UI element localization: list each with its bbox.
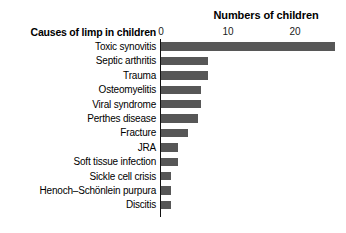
bar-row: Fracture: [0, 126, 346, 140]
bar-category-label: Sickle cell crisis: [0, 170, 156, 184]
bar-row: Sickle cell crisis: [0, 170, 346, 184]
bar-category-label: Trauma: [0, 69, 156, 83]
bar-row: Osteomyelitis: [0, 83, 346, 97]
bar-category-label: Perthes disease: [0, 112, 156, 126]
bar-row: Henoch–Schönlein purpura: [0, 184, 346, 198]
bar: [161, 100, 201, 108]
bar: [161, 201, 171, 209]
bar-category-label: Soft tissue infection: [0, 155, 156, 169]
bar-category-label: Osteomyelitis: [0, 83, 156, 97]
bar-row: Trauma: [0, 69, 346, 83]
bar-row: Septic arthritis: [0, 54, 346, 68]
value-axis-tick-20: 20: [283, 25, 307, 38]
bar-row: Discitis: [0, 198, 346, 212]
bar-category-label: Fracture: [0, 126, 156, 140]
bar: [161, 86, 201, 94]
bar-category-label: Henoch–Schönlein purpura: [0, 184, 156, 198]
bar: [161, 143, 178, 151]
bar-row: Viral syndrome: [0, 98, 346, 112]
bar-category-label: Discitis: [0, 198, 156, 212]
bar: [161, 172, 171, 180]
bar-category-label: Viral syndrome: [0, 98, 156, 112]
bar: [161, 71, 208, 79]
bar-row: JRA: [0, 141, 346, 155]
bar-row: Toxic synovitis: [0, 40, 346, 54]
bar-category-label: JRA: [0, 141, 156, 155]
bar-row: Perthes disease: [0, 112, 346, 126]
value-axis-tick-0: 0: [149, 25, 173, 38]
bar: [161, 186, 171, 194]
bar-category-label: Toxic synovitis: [0, 40, 156, 54]
bar-row: Soft tissue infection: [0, 155, 346, 169]
bar: [161, 57, 208, 65]
plot-area: Toxic synovitisSeptic arthritisTraumaOst…: [0, 39, 346, 225]
bar-category-label: Septic arthritis: [0, 54, 156, 68]
value-axis-tick-labels: 01020: [0, 25, 346, 39]
chart-title: Numbers of children: [186, 9, 346, 21]
bar: [161, 42, 335, 50]
value-axis-tick-10: 10: [216, 25, 240, 38]
bar: [161, 129, 188, 137]
bar: [161, 158, 178, 166]
bar-chart-figure: Numbers of children Causes of limp in ch…: [0, 0, 346, 233]
bar: [161, 114, 198, 122]
